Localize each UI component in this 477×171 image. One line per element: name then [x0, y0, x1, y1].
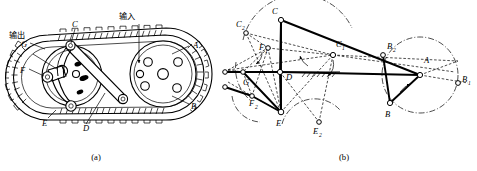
- label-G-b: G: [243, 77, 249, 87]
- label-F-a: F: [19, 65, 26, 75]
- joint-C2: [244, 31, 249, 36]
- caption-a: (a): [91, 152, 101, 162]
- label-E2-sub: 2: [319, 132, 322, 138]
- joint-D: [277, 69, 282, 74]
- label-F2-sub: 2: [255, 104, 258, 110]
- label-C-a: C: [72, 19, 78, 29]
- label-B2-b: B: [387, 41, 392, 51]
- label-E2-b: E: [312, 126, 319, 136]
- input-label: 输入: [119, 11, 135, 21]
- label-F1-b: F: [258, 42, 265, 52]
- label-E-a: E: [41, 118, 48, 128]
- label-B-a: B: [191, 101, 196, 111]
- label-B-b: B: [385, 109, 390, 119]
- joint-left-lower: [223, 85, 228, 90]
- joint-E2: [317, 120, 322, 125]
- label-C2-sub: 2: [242, 25, 245, 31]
- joint-G: [241, 70, 246, 75]
- joint-C1: [330, 52, 335, 57]
- label-D-b: D: [285, 72, 293, 82]
- label-C-b: C: [272, 6, 278, 16]
- label-C1-sub: 1: [342, 45, 345, 51]
- joint-C: [278, 17, 283, 22]
- label-F1-sub: 1: [265, 48, 268, 54]
- joint-A: [417, 72, 422, 77]
- label-G-a: G: [21, 39, 27, 49]
- caption-b: (b): [339, 152, 349, 162]
- joint-E: [278, 109, 284, 115]
- joint-B: [387, 100, 392, 105]
- label-B2-sub: 2: [393, 47, 396, 53]
- joint-B1: [456, 81, 461, 86]
- label-F2-b: F: [248, 98, 255, 108]
- figure-root: 输入 输出 A B C D E F G (a): [0, 0, 477, 171]
- joint-left-pivot: [223, 70, 228, 75]
- label-B1-sub: 1: [468, 80, 471, 86]
- label-D-a: D: [82, 123, 90, 133]
- label-A-b: A: [423, 55, 430, 65]
- label-E-b: E: [275, 118, 282, 128]
- label-A-a: A: [192, 40, 199, 50]
- kinematic-joints: [223, 17, 461, 124]
- label-B1-b: B: [462, 74, 467, 84]
- input-sprocket-A: [130, 41, 196, 107]
- joint-B2: [381, 53, 386, 58]
- panel-a-drawing: 输入 输出 A B C D E F G (a): [0, 0, 477, 171]
